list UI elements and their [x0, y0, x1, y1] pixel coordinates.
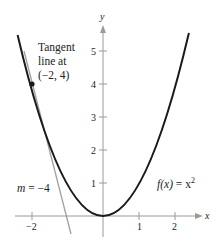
- x-tick-label: 2: [172, 221, 177, 232]
- y-tick-label: 3: [91, 112, 96, 123]
- y-tick-label: 2: [91, 145, 96, 156]
- y-tick-label: 1: [91, 178, 96, 189]
- y-axis: y: [99, 11, 106, 237]
- x-axis-label: x: [204, 210, 210, 221]
- function-label: f(x) = x2: [157, 176, 195, 191]
- x-tick-label: −2: [26, 221, 37, 232]
- y-tick-label: 4: [91, 79, 96, 90]
- svg-text:(−2, 4): (−2, 4): [38, 69, 70, 82]
- tangent-line-chart: x y −2 1 2 1 2 3 4 5 Tangent line at (−2…: [0, 0, 216, 247]
- x-axis: x: [15, 210, 210, 221]
- y-axis-label: y: [99, 11, 105, 22]
- slope-annotation: m = −4: [17, 182, 50, 194]
- tangent-point: [29, 81, 34, 86]
- x-tick-label: 1: [137, 221, 142, 232]
- y-tick-label: 5: [91, 46, 96, 57]
- svg-text:line at: line at: [38, 55, 67, 67]
- svg-text:Tangent: Tangent: [38, 41, 76, 54]
- tangent-annotation: Tangent line at (−2, 4): [38, 41, 76, 82]
